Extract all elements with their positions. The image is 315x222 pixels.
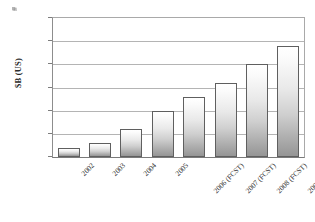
x-axis-tick-label: 2007 (FCST) (243, 161, 277, 195)
y-axis-title: $B (US) (13, 43, 23, 103)
gridline (53, 41, 304, 42)
bar (277, 46, 299, 157)
bar (215, 83, 237, 157)
bar (152, 111, 174, 157)
bar (246, 64, 268, 157)
bar (183, 97, 205, 157)
x-axis-tick-label: 2006 (FCST) (212, 161, 246, 195)
x-axis-tick-label: 2003 (110, 161, 127, 178)
x-axis-tick-label: 2005 (173, 161, 190, 178)
bar-chart-figure: $B (US) $3.0$2.5$2.0$1.5$1.0$0.5$0.0 200… (0, 0, 315, 222)
bar (120, 129, 142, 157)
bar (89, 143, 111, 157)
x-axis-tick-label: 2004 (142, 161, 159, 178)
bar (58, 148, 80, 157)
x-axis-tick-label: 2002 (79, 161, 96, 178)
plot-area (52, 17, 305, 158)
scan-artifact-speck (12, 7, 17, 11)
x-axis-tick-label: 2008 (FCST) (274, 161, 308, 195)
